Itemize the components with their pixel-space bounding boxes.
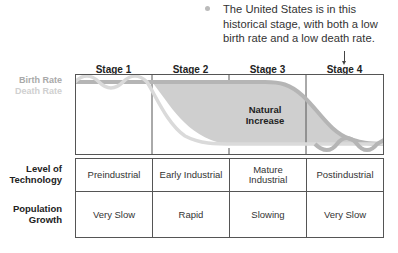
technology-cell: Preindustrial (76, 159, 153, 191)
technology-cell: Early Industrial (153, 159, 230, 191)
birth-rate-label: Birth Rate (19, 75, 62, 85)
growth-cell: Rapid (153, 192, 230, 238)
natural-increase-label: Natural Increase (230, 104, 300, 126)
stage-table: Preindustrial Early Industrial Mature In… (75, 158, 384, 238)
annotation-text: The United States is in this historical … (214, 2, 398, 46)
transition-chart: Natural Increase (75, 74, 384, 155)
technology-cell: Mature Industrial (230, 159, 307, 191)
death-rate-label: Death Rate (15, 86, 62, 96)
technology-cell: Postindustrial (307, 159, 383, 191)
growth-cell: Very Slow (76, 192, 153, 238)
growth-row: Very Slow Rapid Slowing Very Slow (76, 192, 383, 238)
growth-row-label: Population Growth (13, 203, 62, 225)
bullet-dot-icon (205, 6, 210, 11)
growth-cell: Slowing (230, 192, 307, 238)
growth-cell: Very Slow (307, 192, 383, 238)
technology-row: Preindustrial Early Industrial Mature In… (76, 159, 383, 192)
us-annotation: The United States is in this historical … (214, 2, 398, 46)
technology-row-label: Level of Technology (9, 163, 62, 185)
